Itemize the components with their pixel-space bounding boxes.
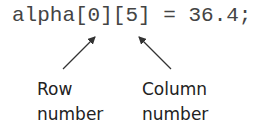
column-label-line2: number [142,102,208,127]
array-index-diagram: alpha[0][5] = 36.4; Row number Column nu… [0,0,263,130]
row-number-label: Row number [37,77,103,127]
column-arrow-icon [139,37,171,69]
row-label-line1: Row [37,77,103,102]
column-label-line1: Column [142,77,208,102]
column-number-label: Column number [142,77,208,127]
row-label-line2: number [37,102,103,127]
row-arrow-icon [63,37,95,69]
